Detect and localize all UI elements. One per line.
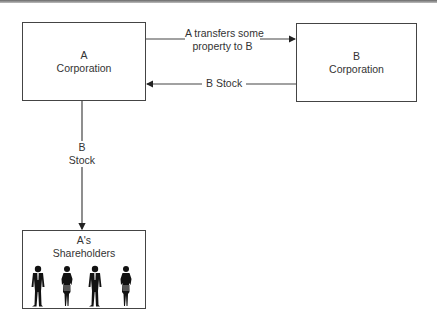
a-corporation-box: A Corporation — [22, 22, 146, 101]
shareholders-label-line1: A's — [23, 234, 145, 247]
edge-label-a-to-b-line2: property to B — [185, 40, 260, 53]
edge-label-b-to-a: B Stock — [202, 77, 246, 90]
shareholders-box: A's Shareholders — [22, 230, 146, 309]
a-corp-label-line1: A — [23, 49, 145, 62]
b-corp-label-line2: Corporation — [297, 63, 416, 76]
edge-label-a-to-shareholders: B Stock — [68, 141, 96, 167]
edge-label-a-to-b-line1: A transfers some — [185, 27, 260, 40]
shareholders-label-line2: Shareholders — [23, 247, 145, 260]
woman-silhouette-icon — [57, 265, 77, 308]
edge-label-a-to-b: A transfers some property to B — [185, 27, 260, 53]
b-corporation-box: B Corporation — [296, 23, 417, 102]
man-silhouette-icon — [28, 265, 48, 308]
edge-label-a-to-sh-line1: B — [68, 141, 96, 154]
edge-label-a-to-sh-line2: Stock — [68, 154, 96, 167]
man-silhouette-icon — [85, 265, 105, 308]
b-corp-label-line1: B — [297, 50, 416, 63]
woman-silhouette-icon — [116, 265, 136, 308]
a-corp-label-line2: Corporation — [23, 62, 145, 75]
